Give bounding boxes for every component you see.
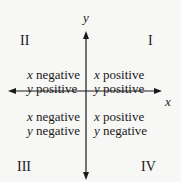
x-axis-right-arrow-icon (154, 88, 162, 94)
quadrant-I-x-sign: x positive (94, 68, 144, 81)
quadrant-III-x-sign: x negative (27, 110, 80, 123)
quadrant-IV-x-sign: x positive (94, 110, 144, 123)
quadrant-II-y-sign: y positive (27, 82, 77, 95)
quadrant-II-label: II (20, 34, 29, 48)
quadrant-II-x-sign: x negative (27, 68, 80, 81)
quadrant-III-y-sign: y negative (27, 124, 80, 137)
quadrant-IV-y-sign: y negative (94, 124, 147, 137)
quadrant-III-label: III (17, 160, 31, 174)
x-axis-left-arrow-icon (8, 88, 16, 94)
quadrant-IV-label: IV (141, 160, 156, 174)
x-axis-label: x (165, 94, 171, 110)
y-axis-down-arrow-icon (83, 172, 89, 180)
y-axis-up-arrow-icon (83, 31, 89, 39)
quadrant-I-label: I (148, 34, 153, 48)
quadrant-I-y-sign: y positive (94, 82, 144, 95)
y-axis-label: y (83, 10, 89, 26)
